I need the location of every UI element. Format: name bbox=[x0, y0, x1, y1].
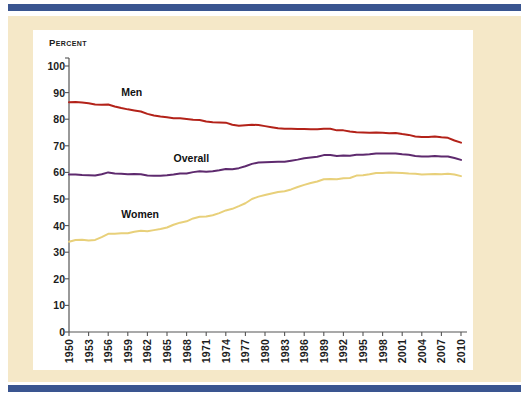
x-tick-label-1965: 1965 bbox=[161, 339, 173, 363]
x-tick-label-1989: 1989 bbox=[318, 339, 330, 363]
x-tick-label-2001: 2001 bbox=[396, 339, 408, 363]
series-label-women: Women bbox=[121, 208, 159, 220]
line-chart[interactable]: Percent 0102030405060708090100 195019531… bbox=[33, 30, 473, 370]
x-tick-label-1977: 1977 bbox=[239, 339, 251, 363]
series-label-overall: Overall bbox=[174, 152, 210, 164]
bottom-rule-bar bbox=[8, 385, 521, 392]
x-tick-label-1950: 1950 bbox=[63, 339, 75, 363]
x-tick-label-2007: 2007 bbox=[435, 339, 447, 363]
x-axis-tick-labels: 1950195319561959196219651968197119741977… bbox=[33, 30, 473, 370]
x-tick-label-1968: 1968 bbox=[181, 339, 193, 363]
x-tick-label-1953: 1953 bbox=[83, 339, 95, 363]
x-tick-label-1974: 1974 bbox=[220, 339, 232, 363]
x-tick-label-1962: 1962 bbox=[141, 339, 153, 363]
x-tick-label-1956: 1956 bbox=[102, 339, 114, 363]
x-tick-label-2004: 2004 bbox=[416, 339, 428, 363]
x-tick-label-1983: 1983 bbox=[279, 339, 291, 363]
series-label-men: Men bbox=[121, 86, 142, 98]
x-tick-label-1980: 1980 bbox=[259, 339, 271, 363]
x-tick-label-1986: 1986 bbox=[298, 339, 310, 363]
x-tick-label-1998: 1998 bbox=[377, 339, 389, 363]
chart-card: Percent 0102030405060708090100 195019531… bbox=[33, 30, 473, 370]
x-tick-label-1959: 1959 bbox=[122, 339, 134, 363]
page-frame: Percent 0102030405060708090100 195019531… bbox=[0, 0, 529, 409]
x-tick-label-2010: 2010 bbox=[455, 339, 467, 363]
top-rule-bar bbox=[8, 4, 521, 11]
x-tick-label-1971: 1971 bbox=[200, 339, 212, 363]
x-tick-label-1995: 1995 bbox=[357, 339, 369, 363]
x-tick-label-1992: 1992 bbox=[337, 339, 349, 363]
